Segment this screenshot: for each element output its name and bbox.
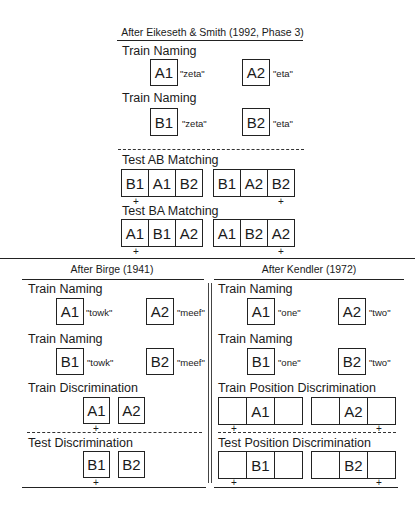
position-cell	[218, 397, 247, 425]
name-label: "meef"	[177, 357, 205, 368]
stimulus-box: A1	[56, 298, 84, 325]
stimulus-box: B1	[247, 348, 275, 375]
position-cell: B1	[246, 451, 275, 479]
name-label: "eta"	[273, 68, 293, 79]
stimulus-box: A1	[150, 59, 178, 86]
test-ba-matching-label: Test BA Matching	[122, 204, 219, 218]
position-cell: A2	[339, 397, 368, 425]
stimulus-box: B2	[118, 451, 145, 478]
matching-cell: A1	[213, 219, 241, 247]
matching-cell: A2	[240, 169, 268, 197]
matching-cell: B2	[175, 169, 203, 197]
stimulus-box: B1	[83, 451, 110, 478]
stimulus-box: A2	[118, 397, 145, 424]
kendler-left-border	[211, 283, 212, 483]
position-cell: A1	[246, 397, 275, 425]
matching-cell: A1	[148, 169, 176, 197]
kendler-panel-title: After Kendler (1972)	[214, 263, 404, 275]
matching-cell: B1	[148, 219, 176, 247]
section-divider	[0, 258, 415, 259]
name-label: "one"	[278, 307, 301, 318]
name-label: "zeta"	[182, 118, 207, 129]
top-train-naming-2-label: Train Naming	[122, 91, 197, 105]
matching-cell: B1	[121, 169, 149, 197]
position-cell	[367, 451, 396, 479]
position-cell	[274, 397, 303, 425]
name-label: "eta"	[273, 118, 293, 129]
matching-cell: A2	[267, 219, 295, 247]
kendler-title-underline	[214, 279, 404, 280]
matching-cell: B2	[267, 169, 295, 197]
test-ab-matching-label: Test AB Matching	[122, 153, 219, 167]
position-cell	[311, 397, 340, 425]
name-label: "towk"	[87, 357, 113, 368]
birge-train-naming-2-label: Train Naming	[28, 332, 103, 346]
kendler-train-naming-1-label: Train Naming	[218, 282, 293, 296]
position-cell	[218, 451, 247, 479]
name-label: "two"	[369, 357, 391, 368]
birge-right-border	[208, 283, 209, 483]
matching-cell: B1	[213, 169, 241, 197]
name-label: "two"	[369, 307, 391, 318]
stimulus-box: A2	[242, 59, 270, 86]
name-label: "zeta"	[180, 68, 205, 79]
test-position-discrimination-label: Test Position Discrimination	[218, 436, 371, 450]
stimulus-box: B1	[56, 348, 84, 375]
top-title-underline	[117, 40, 303, 41]
correct-marker: +	[278, 247, 284, 257]
stimulus-box: B2	[242, 108, 270, 136]
position-cell	[367, 397, 396, 425]
stimulus-box: A1	[83, 397, 110, 424]
stimulus-box: A1	[247, 298, 275, 325]
kendler-bottom-line	[214, 487, 398, 488]
birge-title-underline	[22, 279, 204, 280]
correct-marker: +	[278, 197, 284, 207]
top-train-naming-1-label: Train Naming	[122, 44, 197, 58]
kendler-train-naming-2-label: Train Naming	[218, 332, 293, 346]
matching-cell: A2	[175, 219, 203, 247]
stimulus-box: A2	[338, 298, 366, 325]
name-label: "one"	[278, 357, 301, 368]
top-panel-title: After Eikeseth & Smith (1992, Phase 3)	[100, 26, 325, 38]
birge-train-naming-1-label: Train Naming	[28, 282, 103, 296]
phase-divider-dashed	[218, 432, 396, 433]
stimulus-box: B2	[338, 348, 366, 375]
train-position-discrimination-label: Train Position Discrimination	[218, 381, 376, 395]
birge-bottom-line	[22, 487, 206, 488]
stimulus-box: B1	[150, 108, 178, 136]
phase-divider-dashed	[27, 432, 202, 433]
birge-panel-title: After Birge (1941)	[22, 263, 202, 275]
train-discrimination-label: Train Discrimination	[28, 381, 138, 395]
position-cell	[274, 451, 303, 479]
phase-divider-dashed	[118, 149, 304, 150]
name-label: "meef"	[177, 307, 205, 318]
stimulus-box: A2	[146, 298, 174, 325]
matching-cell: B2	[240, 219, 268, 247]
name-label: "towk"	[86, 307, 112, 318]
matching-cell: A1	[121, 219, 149, 247]
test-discrimination-label: Test Discrimination	[28, 436, 133, 450]
stimulus-box: B2	[146, 348, 174, 375]
position-cell: B2	[339, 451, 368, 479]
correct-marker: +	[133, 247, 139, 257]
position-cell	[311, 451, 340, 479]
